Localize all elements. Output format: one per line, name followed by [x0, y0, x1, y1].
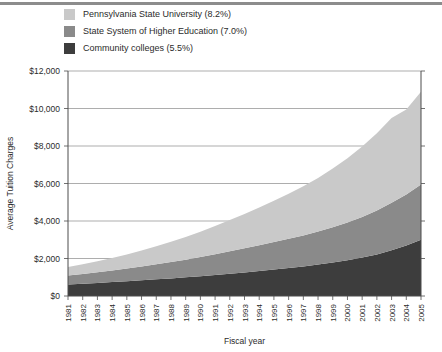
x-tick-label: 1994 — [255, 303, 264, 321]
x-tick-label: 2005 — [417, 303, 426, 321]
x-tick-label: 1995 — [270, 303, 279, 321]
chart-plot-area: $0$2,000$4,000$6,000$8,000$10,000$12,000… — [0, 0, 442, 352]
x-tick-label: 2001 — [358, 303, 367, 321]
y-tick-label: $0 — [51, 291, 61, 301]
x-tick-label: 2002 — [373, 303, 382, 321]
x-tick-label: 1997 — [299, 303, 308, 321]
x-tick-label: 1989 — [182, 303, 191, 321]
x-tick-label: 1984 — [108, 303, 117, 321]
y-tick-label: $12,000 — [29, 66, 60, 76]
x-tick-label: 1993 — [241, 303, 250, 321]
y-tick-label: $2,000 — [34, 254, 60, 264]
stacked-area-chart: $0$2,000$4,000$6,000$8,000$10,000$12,000… — [0, 0, 442, 352]
x-tick-label: 2003 — [388, 303, 397, 321]
x-tick-label: 1991 — [211, 303, 220, 321]
x-tick-label: 1998 — [314, 303, 323, 321]
x-tick-label: 2004 — [402, 303, 411, 321]
x-tick-label: 1996 — [285, 303, 294, 321]
x-tick-label: 1982 — [79, 303, 88, 321]
y-tick-label: $8,000 — [34, 141, 60, 151]
x-tick-label: 1986 — [138, 303, 147, 321]
x-tick-label: 1987 — [152, 303, 161, 321]
x-tick-label: 2000 — [343, 303, 352, 321]
x-tick-label: 1999 — [329, 303, 338, 321]
y-tick-label: $6,000 — [34, 179, 60, 189]
y-tick-label: $10,000 — [29, 104, 60, 114]
x-tick-label: 1981 — [64, 303, 73, 321]
x-tick-label: 1988 — [167, 303, 176, 321]
x-tick-label: 1983 — [93, 303, 102, 321]
x-tick-label: 1992 — [226, 303, 235, 321]
x-tick-label: 1990 — [196, 303, 205, 321]
y-axis-title: Average Tuition Charges — [5, 137, 15, 230]
x-tick-label: 1985 — [123, 303, 132, 321]
y-tick-label: $4,000 — [34, 216, 60, 226]
x-axis-title: Fiscal year — [224, 336, 265, 346]
